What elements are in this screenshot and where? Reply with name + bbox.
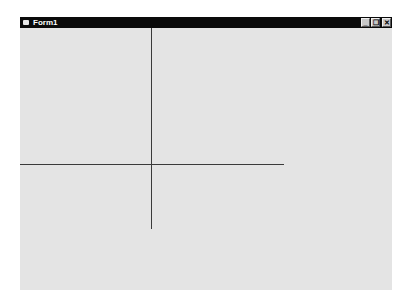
minimize-button[interactable]: _	[361, 18, 370, 27]
horizontal-line	[20, 164, 284, 165]
form-window: Form1 _ ❐ ✕	[20, 17, 392, 290]
minimize-icon: _	[362, 19, 369, 26]
form-icon[interactable]	[23, 20, 29, 25]
close-button[interactable]: ✕	[382, 18, 391, 27]
restore-icon: ❐	[372, 19, 379, 26]
title-bar[interactable]: Form1 _ ❐ ✕	[20, 17, 392, 28]
close-icon: ✕	[383, 19, 390, 26]
restore-button[interactable]: ❐	[371, 18, 380, 27]
vertical-line	[151, 28, 152, 229]
window-title: Form1	[33, 17, 57, 28]
client-area[interactable]	[20, 28, 392, 290]
caption-buttons: _ ❐ ✕	[361, 18, 391, 27]
